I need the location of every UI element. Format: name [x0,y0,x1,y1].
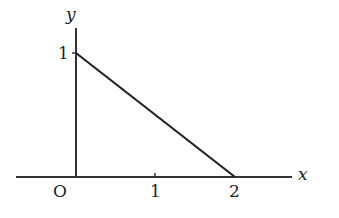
origin-label: O [53,183,67,200]
x-tick-label-1: 1 [150,183,161,200]
line-segment [76,53,235,177]
graph-svg [0,0,339,218]
x-tick-label-2: 2 [229,183,240,200]
y-axis-label: y [66,6,76,23]
graph-canvas: y 1 O 1 2 x [0,0,339,218]
x-axis-label: x [298,166,308,183]
y-tick-label-1: 1 [58,45,69,62]
